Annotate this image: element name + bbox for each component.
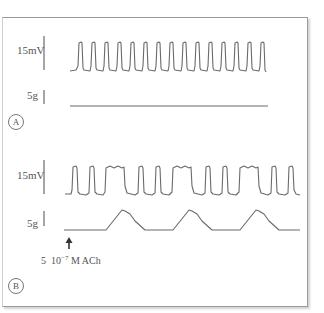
- traces-plot: [0, 0, 324, 313]
- panel-b-membrane-trace: [65, 166, 300, 195]
- up-arrow-icon: [66, 237, 73, 249]
- panel-a-membrane-trace: [70, 42, 266, 72]
- panel-b-force-trace: [64, 210, 300, 230]
